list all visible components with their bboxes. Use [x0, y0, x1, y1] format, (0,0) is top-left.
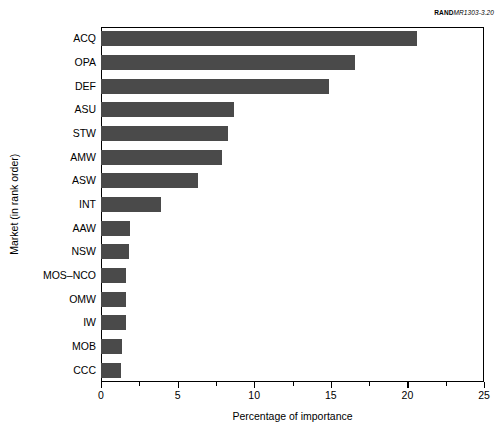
bar-row	[101, 311, 126, 335]
bar-def	[101, 79, 329, 94]
bar-row	[101, 74, 329, 98]
bar-row	[101, 98, 234, 122]
bar-omw	[101, 292, 126, 307]
x-tick-major	[178, 382, 179, 388]
bar-row	[101, 358, 121, 382]
bar-chart-figure: RANDMR1303-3.20 ACQOPADEFASUSTWAMWASWINT…	[0, 0, 503, 442]
bar-nsw	[101, 244, 129, 259]
bar-aaw	[101, 221, 130, 236]
bar-row	[101, 193, 161, 217]
bar-asu	[101, 102, 234, 117]
x-tick-minor	[369, 382, 370, 386]
x-tick-label-10: 10	[248, 390, 260, 401]
bar-mos-nco	[101, 268, 126, 283]
bar-stw	[101, 126, 228, 141]
x-tick-minor	[293, 382, 294, 386]
bar-acq	[101, 31, 417, 46]
x-axis-title: Percentage of importance	[101, 411, 484, 422]
x-tick-minor	[446, 382, 447, 386]
bar-opa	[101, 55, 355, 70]
bar-asw	[101, 173, 198, 188]
y-axis-title: Market (in rank order)	[6, 27, 22, 382]
bar-row	[101, 122, 228, 146]
bar-row	[101, 240, 129, 264]
bar-row	[101, 216, 130, 240]
bar-mob	[101, 339, 122, 354]
rand-document-code: MR1303-3.20	[454, 9, 494, 16]
bar-row	[101, 27, 417, 51]
bar-int	[101, 197, 161, 212]
x-tick-label-25: 25	[478, 390, 490, 401]
x-tick-label-15: 15	[325, 390, 337, 401]
x-tick-major	[407, 382, 408, 388]
bar-iw	[101, 315, 126, 330]
x-tick-label-20: 20	[402, 390, 414, 401]
x-tick-major	[101, 382, 102, 388]
x-tick-minor	[216, 382, 217, 386]
y-axis-title-text: Market (in rank order)	[9, 154, 20, 255]
x-tick-major	[484, 382, 485, 388]
bars-container	[101, 27, 484, 382]
x-tick-minor	[139, 382, 140, 386]
rand-source-tag: RANDMR1303-3.20	[434, 10, 494, 17]
bar-row	[101, 169, 198, 193]
x-tick-label-0: 0	[98, 390, 104, 401]
rand-brand-label: RAND	[434, 9, 453, 16]
bar-row	[101, 145, 222, 169]
bar-row	[101, 264, 126, 288]
bar-ccc	[101, 363, 121, 378]
x-tick-major	[254, 382, 255, 388]
bar-amw	[101, 150, 222, 165]
x-tick-major	[331, 382, 332, 388]
bar-row	[101, 335, 122, 359]
bar-row	[101, 51, 355, 75]
bar-row	[101, 287, 126, 311]
x-tick-label-5: 5	[175, 390, 181, 401]
